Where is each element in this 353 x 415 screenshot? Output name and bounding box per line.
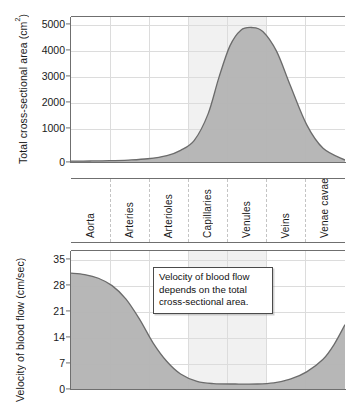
category-label-arterioles: Arterioles — [163, 194, 174, 238]
cross-sectional-area-axis-title: Total cross-sectional area (cm2) — [14, 14, 28, 164]
velocity-annotation-callout: Velocity of blood flow depends on the to… — [153, 267, 273, 314]
column-separator — [227, 179, 228, 242]
ytick-label-0: 0 — [32, 156, 65, 168]
ytick-label-28: 28 — [38, 279, 65, 291]
ytick-label-3000: 3000 — [32, 70, 65, 82]
ytick-label-35: 35 — [38, 253, 65, 265]
ytick-label-14: 14 — [38, 331, 65, 343]
column-separator — [110, 179, 111, 242]
ytick-label-21: 21 — [38, 305, 65, 317]
category-label-venae-cavae: Venae cavae — [319, 178, 330, 238]
category-label-veins: Veins — [280, 213, 291, 238]
column-separator — [188, 179, 189, 242]
axis-title-sup: 2 — [14, 18, 21, 22]
ytick-label-4000: 4000 — [32, 44, 65, 56]
ytick-label-1000: 1000 — [32, 122, 65, 134]
ytick-label-7: 7 — [38, 357, 65, 369]
ytick-label-0: 0 — [38, 383, 65, 395]
annotation-line-3: cross-sectional area. — [159, 296, 267, 309]
cross-sectional-area-panel: Total cross-sectional area (cm2) 5000 40… — [0, 0, 353, 178]
category-label-venules: Venules — [241, 201, 252, 238]
ytick-label-5000: 5000 — [32, 18, 65, 30]
category-label-capillaries: Capillaries — [202, 189, 213, 238]
axis-title-text: Total cross-sectional area (cm — [17, 22, 29, 164]
category-label-arteries: Arteries — [124, 202, 135, 238]
column-separator — [266, 179, 267, 242]
x-axis-line — [70, 389, 346, 390]
blood-flow-figure: Total cross-sectional area (cm2) 5000 40… — [0, 0, 353, 415]
vessel-type-label-strip: Aorta Arteries Arterioles Capillaries Ve… — [71, 178, 345, 243]
axis-title-suffix: ) — [17, 14, 29, 18]
velocity-axis-title: Velocity of blood flow (cm/sec) — [14, 255, 28, 405]
x-axis-line — [70, 162, 346, 163]
ytick-label-2000: 2000 — [32, 96, 65, 108]
category-label-aorta: Aorta — [85, 213, 96, 238]
column-separator — [305, 179, 306, 242]
cross-sectional-area-curve — [71, 17, 345, 163]
annotation-line-1: Velocity of blood flow — [159, 271, 267, 284]
cross-sectional-area-plot — [71, 16, 345, 163]
annotation-line-2: depends on the total — [159, 284, 267, 297]
column-separator — [149, 179, 150, 242]
